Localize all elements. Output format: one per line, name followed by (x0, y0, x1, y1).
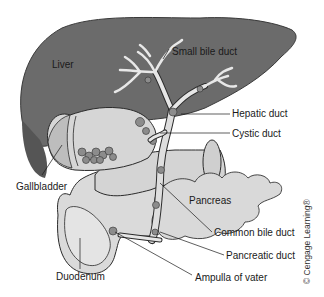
label-gallbladder: Gallbladder (16, 181, 67, 193)
label-pancreatic-duct: Pancreatic duct (226, 250, 295, 262)
label-duodenum: Duodenum (56, 271, 105, 283)
label-hepatic-duct: Hepatic duct (232, 108, 288, 120)
label-ampulla-of-vater: Ampulla of vater (195, 272, 267, 284)
copyright-notice: © Cengage Learning® (302, 199, 312, 284)
biliary-anatomy-diagram: Liver Small bile duct Hepatic duct Cysti… (0, 0, 324, 297)
label-small-bile-duct: Small bile duct (172, 46, 237, 58)
label-cystic-duct: Cystic duct (232, 128, 281, 140)
label-pancreas: Pancreas (189, 195, 231, 207)
label-liver: Liver (52, 59, 74, 71)
label-common-bile-duct: Common bile duct (214, 227, 295, 239)
